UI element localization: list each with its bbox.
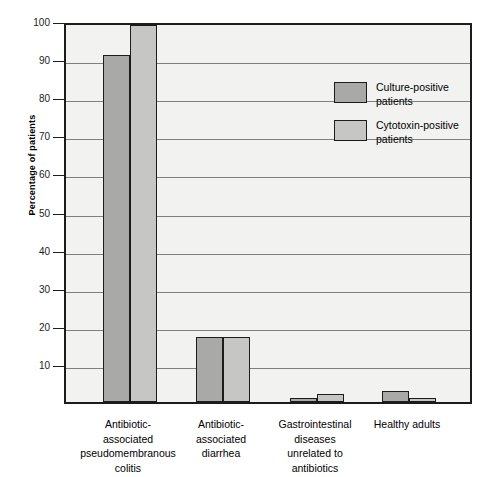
bar — [223, 337, 250, 402]
y-axis-tick-mark — [53, 366, 64, 367]
y-axis-tick-mark — [53, 290, 64, 291]
plot-area: Culture-positive patientsCytotoxin-posit… — [64, 23, 472, 404]
chart-legend: Culture-positive patientsCytotoxin-posit… — [334, 81, 489, 157]
legend-item: Cytotoxin-positive patients — [334, 119, 489, 146]
y-axis-tick-label: 90 — [39, 54, 50, 67]
y-axis-tick-label: 60 — [39, 168, 50, 181]
bar — [317, 394, 344, 402]
y-axis-tick-label: 30 — [39, 283, 50, 296]
y-axis-tick-mark — [53, 61, 64, 62]
bar — [103, 55, 130, 402]
y-axis-tick-label: 20 — [39, 321, 50, 334]
y-axis-tick-mark — [53, 137, 64, 138]
legend-label: Cytotoxin-positive patients — [376, 119, 459, 146]
bar — [409, 398, 436, 402]
y-axis-tick-label: 10 — [39, 359, 50, 372]
y-axis-tick-label: 70 — [39, 130, 50, 143]
y-axis-tick-mark — [53, 214, 64, 215]
bar — [196, 337, 223, 402]
y-axis-tick-mark — [53, 23, 64, 24]
legend-item: Culture-positive patients — [334, 81, 489, 108]
y-axis-tick-label: 80 — [39, 92, 50, 105]
legend-swatch — [334, 120, 367, 141]
y-axis-tick-mark — [53, 175, 64, 176]
y-axis-title: Percentage of patients — [27, 93, 37, 238]
y-axis-tick-label: 40 — [39, 245, 50, 258]
chart-figure: Percentage of patients 10203040506070809… — [0, 0, 489, 477]
bar — [130, 25, 157, 402]
y-axis-tick-mark — [53, 328, 64, 329]
y-axis-tick-label: 100 — [33, 16, 50, 29]
y-axis-tick-mark — [53, 99, 64, 100]
y-axis-tick-mark — [53, 252, 64, 253]
bar — [290, 398, 317, 402]
bar — [382, 391, 409, 402]
legend-swatch — [334, 82, 367, 103]
x-axis-category-label: Healthy adults — [352, 417, 462, 432]
legend-label: Culture-positive patients — [376, 81, 449, 108]
y-axis-tick-label: 50 — [39, 207, 50, 220]
